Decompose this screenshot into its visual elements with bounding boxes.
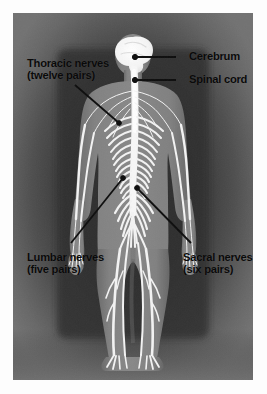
label-sacral-line1: Sacral nerves (183, 251, 253, 263)
label-cerebrum-line1: Cerebrum (189, 50, 240, 62)
illustration-plate: Thoracic nerves (twelve pairs) Cerebrum … (13, 13, 253, 380)
label-sacral-nerves: Sacral nerves (six pairs) (183, 252, 253, 275)
label-thoracic-nerves: Thoracic nerves (twelve pairs) (27, 58, 109, 81)
label-spinal-cord-line1: Spinal cord (189, 73, 247, 85)
label-thoracic-line1: Thoracic nerves (27, 57, 109, 69)
label-lumbar-line1: Lumbar nerves (27, 251, 104, 263)
nervous-system-figure: Thoracic nerves (twelve pairs) Cerebrum … (0, 0, 267, 394)
label-spinal-cord: Spinal cord (189, 74, 247, 86)
label-cerebrum: Cerebrum (189, 51, 240, 63)
label-lumbar-line2: (five pairs) (27, 264, 104, 276)
label-lumbar-nerves: Lumbar nerves (five pairs) (27, 252, 104, 275)
label-thoracic-line2: (twelve pairs) (27, 70, 109, 82)
label-sacral-line2: (six pairs) (183, 264, 253, 276)
